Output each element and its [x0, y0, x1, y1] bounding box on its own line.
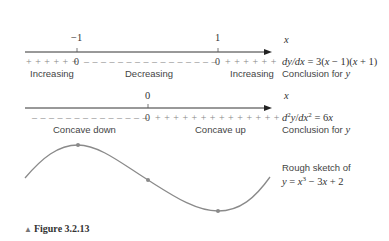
- conclusion-label: Conclusion for y: [282, 69, 350, 80]
- figure-caption: ▲Figure 3.2.13: [24, 224, 90, 234]
- axis-var-x: x: [284, 91, 289, 102]
- inflection-point: [146, 178, 150, 182]
- tick-label-zero: 0: [145, 91, 150, 102]
- sign-plus-right: + + + + + + + + + + + + + +: [155, 113, 280, 123]
- first-derivative-expression: dy/dx = 3(x − 1)(x + 1): [282, 57, 377, 68]
- sign-plus-right: + + + + + +: [225, 57, 277, 67]
- conclusion-label: Conclusion for y: [282, 125, 350, 136]
- interval-label-concave-up: Concave up: [195, 125, 246, 135]
- curve-sketch: [25, 143, 270, 213]
- local-min-point: [216, 209, 220, 213]
- tick-label-minus-one: −1: [71, 33, 82, 44]
- sign-minus-middle: – – – – – – – – – – – – – – – –: [84, 57, 217, 67]
- second-derivative-expression: d2y/dx2 = 6x: [282, 113, 333, 124]
- arrow-right-icon: [264, 105, 272, 111]
- sign-plus-left: + + + + + +: [26, 57, 78, 67]
- interval-label-concave-down: Concave down: [53, 125, 116, 135]
- arrow-right-icon: [264, 49, 272, 55]
- number-line-first-derivative: [25, 48, 272, 55]
- local-max-point: [76, 143, 80, 147]
- interval-label-increasing-left: Increasing: [30, 69, 74, 79]
- sketch-equation: y = x3 − 3x + 2: [282, 177, 344, 188]
- interval-label-increasing-right: Increasing: [230, 69, 274, 79]
- zero-marker: 0: [74, 57, 80, 67]
- triangle-marker-icon: ▲: [24, 225, 32, 234]
- zero-marker: 0: [145, 113, 151, 123]
- number-line-second-derivative: [25, 104, 272, 111]
- sign-minus-left: – – – – – – – – – – – – – –: [32, 113, 148, 123]
- zero-marker: 0: [215, 57, 221, 67]
- tick-label-one: 1: [215, 33, 220, 44]
- sketch-label: Rough sketch of: [282, 163, 351, 173]
- axis-var-x: x: [284, 35, 289, 46]
- interval-label-decreasing: Decreasing: [125, 69, 173, 79]
